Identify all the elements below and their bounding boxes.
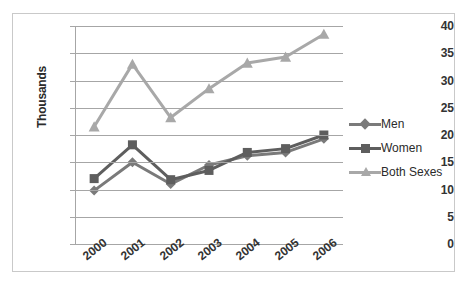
square-marker-icon: [90, 174, 99, 183]
y-axis-tick-label: 0: [408, 238, 454, 250]
series-women: [90, 131, 329, 185]
y-axis-tick-label: 10: [408, 184, 454, 196]
triangle-marker-icon: [361, 167, 371, 176]
plot-area: [75, 26, 343, 244]
legend-item-both-sexes[interactable]: Both Sexes: [349, 160, 454, 184]
y-axis-title: Thousands: [35, 52, 49, 142]
legend-item-men[interactable]: Men: [349, 112, 454, 136]
square-marker-icon: [128, 140, 137, 149]
y-axis-tick-label: 30: [408, 75, 454, 87]
gridline: [75, 81, 343, 82]
legend-label: Men: [381, 117, 404, 131]
gridline: [75, 108, 343, 109]
legend-item-women[interactable]: Women: [349, 136, 454, 160]
legend-label: Women: [381, 141, 422, 155]
square-marker-icon: [281, 144, 290, 153]
y-axis-tick-label: 40: [408, 20, 454, 32]
legend-swatch: [349, 165, 381, 179]
y-axis-tick-label: 5: [408, 211, 454, 223]
square-marker-icon: [243, 148, 252, 157]
gridline: [75, 217, 343, 218]
legend-swatch: [349, 117, 381, 131]
triangle-marker-icon: [127, 59, 138, 69]
chart-frame: Thousands 0510152025303540 2000200120022…: [12, 13, 455, 272]
gridline: [75, 190, 343, 191]
gridline: [75, 26, 343, 27]
chart-canvas: Thousands 0510152025303540 2000200120022…: [13, 14, 454, 271]
y-axis-tick-label: 35: [408, 47, 454, 59]
gridline: [75, 162, 343, 163]
legend-label: Both Sexes: [381, 165, 442, 179]
series-men: [89, 134, 329, 196]
gridline: [75, 135, 343, 136]
legend-swatch: [349, 141, 381, 155]
gridline: [75, 53, 343, 54]
chart-legend: MenWomenBoth Sexes: [349, 112, 454, 184]
square-marker-icon: [361, 144, 370, 153]
square-marker-icon: [205, 166, 214, 175]
square-marker-icon: [166, 175, 175, 184]
diamond-marker-icon: [359, 118, 370, 129]
triangle-marker-icon: [318, 29, 329, 39]
